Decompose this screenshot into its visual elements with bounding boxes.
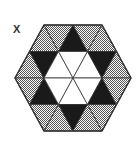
triangle-grid [15,25,131,131]
hexagon-pattern-figure [0,0,139,146]
